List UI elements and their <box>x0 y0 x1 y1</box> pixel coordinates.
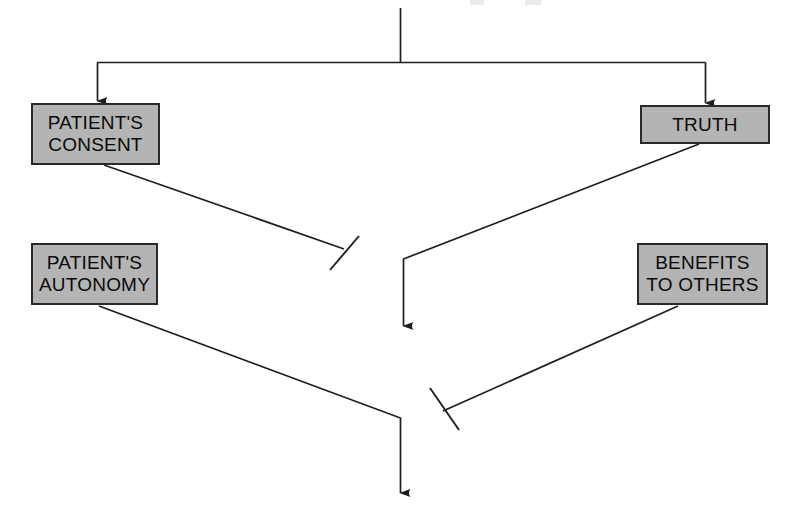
node-benefits-to-others-line2: TO OTHERS <box>646 274 758 296</box>
node-benefits-to-others-line1: BENEFITS <box>655 252 750 274</box>
inhibition-bar-consent-icon <box>330 236 359 270</box>
inhibition-bar-benefits-icon <box>430 388 459 430</box>
node-patients-consent[interactable]: PATIENT'S CONSENT <box>31 103 160 165</box>
cropped-text-fragment-right <box>525 0 541 5</box>
node-benefits-to-others[interactable]: BENEFITS TO OTHERS <box>637 243 768 305</box>
connector-autonomy-outflow <box>99 306 401 493</box>
node-patients-consent-line1: PATIENT'S <box>48 112 144 134</box>
node-patients-autonomy-line2: AUTONOMY <box>39 274 150 296</box>
cropped-text-fragment-left <box>470 0 484 5</box>
node-truth[interactable]: TRUTH <box>640 105 770 144</box>
connector-consent-inhibits-line <box>104 165 344 249</box>
node-patients-autonomy-line1: PATIENT'S <box>47 252 143 274</box>
connector-benefits-inhibits-line <box>443 306 678 411</box>
node-patients-consent-line2: CONSENT <box>48 134 142 156</box>
node-truth-line1: TRUTH <box>672 114 737 136</box>
diagram-canvas: PATIENT'S CONSENT TRUTH PATIENT'S AUTONO… <box>0 0 797 526</box>
node-patients-autonomy[interactable]: PATIENT'S AUTONOMY <box>31 243 158 305</box>
